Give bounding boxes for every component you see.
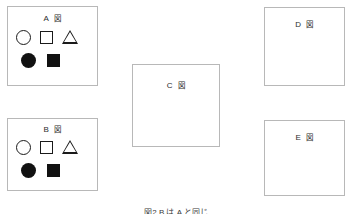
panel-e-letter: E: [296, 134, 302, 142]
triangle-outline-icon: [62, 30, 78, 44]
panel-d-letter: D: [295, 21, 301, 29]
panel-e-glyph: 図: [306, 134, 313, 142]
panel-a[interactable]: A 図: [7, 6, 98, 86]
panel-b-letter: B: [44, 126, 50, 134]
panel-c[interactable]: C 図: [132, 64, 220, 147]
square-outline-icon: [40, 141, 53, 154]
panel-b-glyph: 図: [54, 126, 61, 134]
panel-a-label: A 図: [8, 15, 97, 23]
square-outline-icon: [40, 31, 53, 44]
panel-a-filled-shapes: [21, 52, 91, 68]
square-filled-icon: [47, 54, 60, 67]
panel-e-label: E 図: [265, 134, 344, 142]
panel-e[interactable]: E 図: [264, 120, 345, 196]
panel-d-glyph: 図: [306, 21, 313, 29]
panel-c-glyph: 図: [178, 82, 185, 90]
panel-b-label: B 図: [8, 126, 97, 134]
triangle-outline-icon: [62, 140, 78, 154]
panel-b-filled-shapes: [21, 162, 91, 178]
panel-a-letter: A: [44, 15, 50, 23]
figure-canvas: A 図 B 図 C 図: [0, 0, 352, 214]
panel-b-outline-shapes: [16, 139, 92, 155]
circle-filled-icon: [21, 53, 36, 68]
circle-filled-icon: [21, 163, 36, 178]
panel-b[interactable]: B 図: [7, 118, 98, 191]
panel-a-glyph: 図: [54, 15, 61, 23]
square-filled-icon: [47, 164, 60, 177]
panel-d-label: D 図: [265, 21, 344, 29]
circle-outline-icon: [16, 140, 31, 155]
panel-d[interactable]: D 図: [264, 7, 345, 86]
panel-a-outline-shapes: [16, 29, 92, 45]
figure-caption: 図2 B は A と同じ: [0, 206, 352, 214]
circle-outline-icon: [16, 30, 31, 45]
panel-c-label: C 図: [133, 82, 219, 90]
panel-c-letter: C: [167, 82, 173, 90]
